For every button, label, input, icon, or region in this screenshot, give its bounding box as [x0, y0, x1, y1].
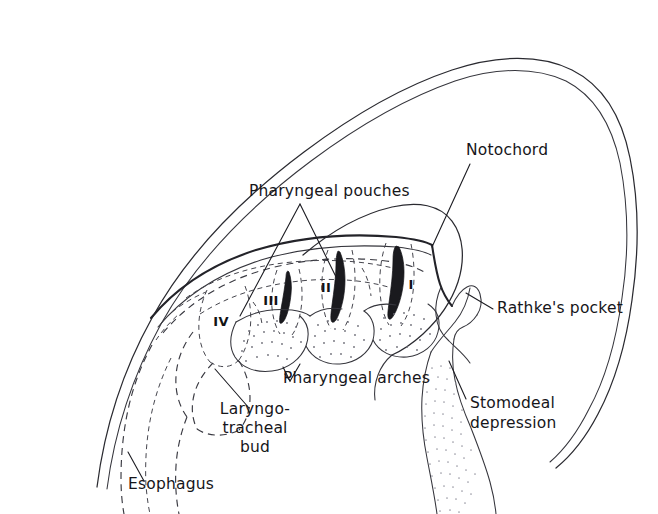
label-laryngotracheal-bud-line3: bud: [240, 438, 270, 456]
pouch-slit-II: [331, 251, 345, 322]
label-stomodeal-depression-line2: depression: [470, 414, 557, 432]
label-pouch-numeral-3: III: [263, 293, 279, 308]
leader-rathkes-pocket: [466, 293, 493, 309]
stipple-texture-stomodeal-band: [424, 365, 476, 513]
anatomical-figure: Pharyngeal pouches Notochord Rathke's po…: [0, 0, 658, 514]
pouch-slit-I: [388, 246, 404, 319]
label-pharyngeal-pouches: Pharyngeal pouches: [249, 182, 410, 200]
label-pouch-numeral-2: II: [321, 280, 331, 295]
label-pharyngeal-arches: Pharyngeal arches: [283, 369, 430, 387]
leader-lines: [128, 164, 493, 481]
label-pouch-numeral-1: I: [408, 277, 413, 292]
label-esophagus: Esophagus: [128, 475, 214, 493]
label-laryngotracheal-bud-line1: Laryngo-: [220, 400, 290, 418]
label-notochord: Notochord: [466, 141, 548, 159]
pharyngeal-pouch-slits: [280, 246, 404, 323]
label-pouch-numeral-4: IV: [213, 314, 229, 329]
leader-stomodeal-depression: [449, 361, 466, 399]
label-stomodeal-depression-line1: Stomodeal: [470, 394, 555, 412]
label-laryngotracheal-bud-line2: tracheal: [222, 419, 287, 437]
label-rathkes-pocket: Rathke's pocket: [497, 299, 623, 317]
pouch-slit-III: [280, 271, 292, 323]
figure-canvas: Pharyngeal pouches Notochord Rathke's po…: [0, 0, 658, 514]
leader-notochord: [432, 164, 470, 247]
leader-pharyngeal-pouches-right: [300, 204, 341, 287]
